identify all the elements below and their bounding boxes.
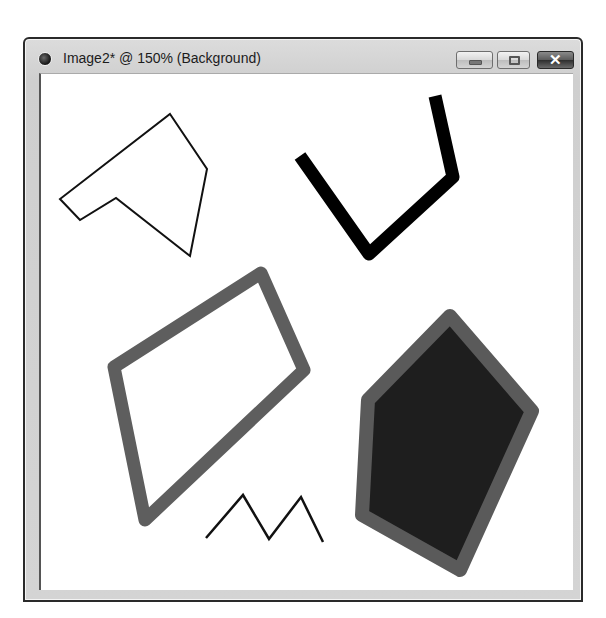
filled-dark-pentagon[interactable] (362, 316, 532, 570)
thick-black-polyline[interactable] (300, 96, 453, 254)
gray-thick-quadrilateral[interactable] (114, 273, 304, 520)
canvas-artwork (0, 0, 606, 618)
thin-outline-polygon[interactable] (60, 114, 207, 256)
zigzag-polyline[interactable] (206, 495, 323, 542)
